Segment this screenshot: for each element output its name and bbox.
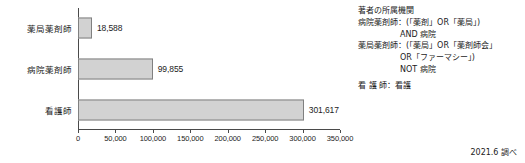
x-tick xyxy=(78,130,79,133)
bar-row: 病院薬剤師99,855 xyxy=(78,49,340,90)
x-tick-label: 200,000 xyxy=(214,134,240,143)
bar-category-label: 看護師 xyxy=(45,104,72,116)
bar-row: 薬局薬剤師18,588 xyxy=(78,8,340,49)
note-line-or-pharmacy: OR「ファーマシー」) xyxy=(358,52,523,64)
bar xyxy=(78,18,92,39)
bar xyxy=(78,58,153,79)
note-heading: 著者の所属機関 xyxy=(358,5,523,17)
bar-category-label: 病院薬剤師 xyxy=(27,63,72,75)
footnote-survey-date: 2021.6 調べ xyxy=(470,146,517,157)
figure-root: 050,000100,000150,000200,000250,000300,0… xyxy=(0,0,525,163)
x-tick-label: 250,000 xyxy=(252,134,278,143)
bar xyxy=(78,99,304,120)
x-tick xyxy=(190,130,191,133)
x-tick xyxy=(265,130,266,133)
note-line-nurse: 看 護 師：看護 xyxy=(358,80,523,92)
x-tick xyxy=(340,130,341,133)
x-tick-label: 0 xyxy=(76,134,80,143)
x-tick-label: 50,000 xyxy=(104,134,126,143)
x-tick xyxy=(228,130,229,133)
note-line-community-pharmacist: 薬局薬剤師：(「薬局」OR「薬剤師会」 xyxy=(358,40,523,52)
plot-area: 050,000100,000150,000200,000250,000300,0… xyxy=(78,8,340,130)
x-tick xyxy=(303,130,304,133)
x-tick-label: 300,000 xyxy=(289,134,315,143)
bar-chart: 050,000100,000150,000200,000250,000300,0… xyxy=(0,0,350,150)
bar-category-label: 薬局薬剤師 xyxy=(27,22,72,34)
x-tick-label: 350,000 xyxy=(327,134,353,143)
bar-value-label: 99,855 xyxy=(158,64,183,74)
note-line-hospital-pharmacist: 病院薬剤師：(「薬剤」OR「薬局」) xyxy=(358,17,523,29)
x-tick xyxy=(153,130,154,133)
note-line-and-hospital: AND 病院 xyxy=(358,29,523,41)
x-tick-label: 150,000 xyxy=(177,134,203,143)
x-tick-label: 100,000 xyxy=(140,134,166,143)
bar-row: 看護師301,617 xyxy=(78,89,340,130)
x-tick xyxy=(115,130,116,133)
note-line-not-hospital: NOT 病院 xyxy=(358,64,523,76)
bar-value-label: 301,617 xyxy=(309,105,339,115)
annotation-note: 著者の所属機関 病院薬剤師：(「薬剤」OR「薬局」) AND 病院 薬局薬剤師：… xyxy=(358,5,523,92)
bar-value-label: 18,588 xyxy=(97,23,122,33)
